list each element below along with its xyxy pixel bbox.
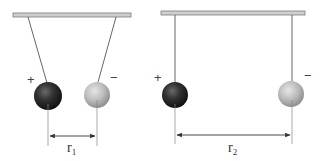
- negative-ball: [278, 81, 304, 107]
- coulomb-diagram: + − r1 + − r2: [0, 0, 324, 161]
- distance-label-r1: r1: [67, 140, 76, 157]
- minus-sign: −: [304, 68, 312, 83]
- distance-label-r2: r2: [228, 140, 237, 157]
- support-bar: [161, 11, 305, 15]
- support-bar: [13, 13, 131, 17]
- panel-close: + − r1: [13, 13, 131, 157]
- plus-sign: +: [154, 70, 162, 85]
- minus-sign: −: [110, 70, 118, 85]
- plus-sign: +: [27, 72, 35, 87]
- panel-far: + − r2: [154, 11, 312, 157]
